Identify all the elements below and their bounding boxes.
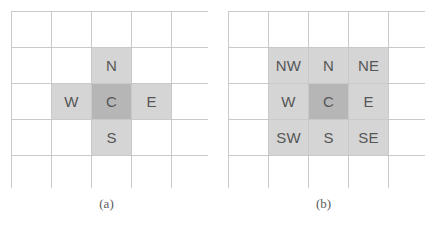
- grid-cell: NW: [269, 48, 308, 83]
- grid-cell: [12, 156, 51, 191]
- grid-cell: N: [92, 48, 131, 83]
- cell-label: E: [363, 94, 373, 109]
- grid-cell: [229, 12, 268, 47]
- grid-cell: [12, 84, 51, 119]
- grid-cell: W: [52, 84, 91, 119]
- figure-container: NWCES (a) NWNNEWCESWSSE (b): [0, 0, 437, 226]
- grid-cell: [172, 156, 211, 191]
- grid-cell: NE: [349, 48, 388, 83]
- grid-cell: SW: [269, 120, 308, 155]
- panel-b: NWNNEWCESWSSE (b): [217, 0, 430, 226]
- grid-cell: [389, 84, 428, 119]
- grid-cell: [132, 48, 171, 83]
- grid-cell: [132, 156, 171, 191]
- grid-cell: [389, 156, 428, 191]
- cell-label: E: [146, 94, 156, 109]
- grid-cell: W: [269, 84, 308, 119]
- panel-a: NWCES (a): [0, 0, 213, 226]
- grid-cell: [12, 120, 51, 155]
- caption-a: (a): [0, 196, 213, 212]
- cell-label: NE: [358, 58, 379, 73]
- grid-cell: N: [309, 48, 348, 83]
- cell-label: SW: [276, 130, 301, 145]
- cell-label: N: [323, 58, 334, 73]
- grid-cell: C: [92, 84, 131, 119]
- cell-label: SE: [358, 130, 378, 145]
- cell-label: S: [323, 130, 333, 145]
- caption-b: (b): [217, 196, 430, 212]
- grid-cell: S: [92, 120, 131, 155]
- grid-cell: SE: [349, 120, 388, 155]
- grid-cell: [92, 156, 131, 191]
- grid-cell: [389, 120, 428, 155]
- grid-cell: [132, 12, 171, 47]
- grid-cell: [92, 12, 131, 47]
- grid-cell: [389, 12, 428, 47]
- grid-cell: [172, 12, 211, 47]
- grid-cell: [172, 84, 211, 119]
- cell-label: NW: [276, 58, 301, 73]
- cell-label: C: [106, 94, 117, 109]
- grid-cell: S: [309, 120, 348, 155]
- cell-label: N: [106, 58, 117, 73]
- grid-cell: [12, 12, 51, 47]
- grid-cell: [172, 120, 211, 155]
- grid-cell: E: [349, 84, 388, 119]
- grid-cell: [229, 84, 268, 119]
- grid-cell: [389, 48, 428, 83]
- grid-cell: [12, 48, 51, 83]
- grid-cell: [309, 156, 348, 191]
- grid-a: NWCES: [11, 11, 208, 188]
- grid-cell: [52, 12, 91, 47]
- grid-cell: [229, 120, 268, 155]
- cell-label: S: [106, 130, 116, 145]
- grid-cell: [52, 48, 91, 83]
- grid-cell: [269, 12, 308, 47]
- grid-cell: [349, 156, 388, 191]
- grid-cell: [229, 156, 268, 191]
- grid-cell: [52, 156, 91, 191]
- grid-cell: [132, 120, 171, 155]
- grid-cell: [172, 48, 211, 83]
- cell-label: W: [281, 94, 295, 109]
- grid-cell: [229, 48, 268, 83]
- grid-cell: C: [309, 84, 348, 119]
- cell-label: W: [64, 94, 78, 109]
- grid-cell: [52, 120, 91, 155]
- grid-b: NWNNEWCESWSSE: [228, 11, 425, 188]
- grid-cell: [309, 12, 348, 47]
- grid-cell: [349, 12, 388, 47]
- grid-cell: E: [132, 84, 171, 119]
- grid-cell: [269, 156, 308, 191]
- cell-label: C: [323, 94, 334, 109]
